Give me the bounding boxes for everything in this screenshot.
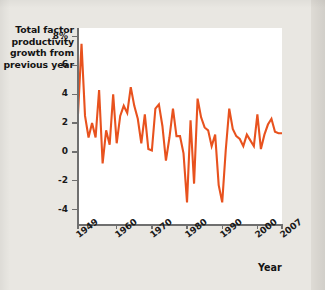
page-right-margin <box>311 0 325 290</box>
y-tick-label: -2 <box>58 175 68 185</box>
y-tick-label: 6 <box>62 59 68 69</box>
x-axis-title: Year <box>258 262 282 273</box>
y-tick-mark <box>72 122 77 123</box>
y-tick-label: 2 <box>62 117 68 127</box>
data-series-line <box>78 44 282 203</box>
y-tick-label: -4 <box>58 204 68 214</box>
y-tick-mark <box>72 36 77 37</box>
y-tick-mark <box>72 180 77 181</box>
y-tick-mark <box>72 151 77 152</box>
line-chart-svg <box>78 28 282 224</box>
y-tick-label: 4 <box>62 88 68 98</box>
y-tick-mark <box>72 209 77 210</box>
figure-container: Total factor productivity growth from pr… <box>0 0 325 290</box>
y-tick-mark <box>72 65 77 66</box>
plot-area <box>78 28 282 224</box>
x-axis-line <box>77 224 283 226</box>
y-axis-line <box>77 28 79 224</box>
y-tick-mark <box>72 94 77 95</box>
y-tick-label: 8% <box>53 31 68 41</box>
y-tick-label: 0 <box>62 146 68 156</box>
